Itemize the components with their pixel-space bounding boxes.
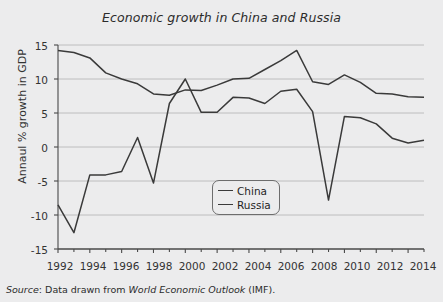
- source-prefix: Source: [6, 284, 39, 295]
- legend-item-china: China: [218, 183, 267, 198]
- plot-area: [0, 0, 443, 302]
- legend-label-russia: Russia: [237, 199, 271, 211]
- legend-swatch-russia: [218, 204, 233, 205]
- y-tick-marks: [54, 45, 58, 249]
- series-line-china: [58, 50, 424, 97]
- source-suffix: (IMF).: [245, 284, 275, 295]
- legend-swatch-china: [218, 190, 233, 191]
- x-tick-marks: [58, 249, 424, 253]
- source-note: Source: Data drawn from World Economic O…: [6, 284, 275, 295]
- chart-figure: Economic growth in China and Russia Anna…: [0, 0, 443, 302]
- source-text: : Data drawn from: [39, 284, 129, 295]
- legend-label-china: China: [237, 185, 267, 197]
- legend: China Russia: [212, 180, 280, 215]
- source-italic-title: World Economic Outlook: [128, 284, 245, 295]
- legend-item-russia: Russia: [218, 197, 271, 212]
